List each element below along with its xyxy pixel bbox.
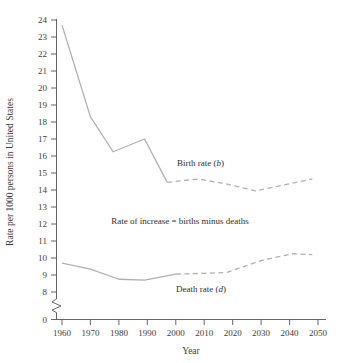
y-tick-0: 0 [43, 315, 48, 325]
death-rate-line-historical [62, 263, 176, 280]
data-series-group [62, 25, 312, 280]
y-tick-12: 12 [38, 219, 47, 229]
x-tick-1970: 1970 [81, 328, 100, 338]
y-tick-10: 10 [38, 253, 48, 263]
y-tick-16: 16 [38, 151, 48, 161]
y-tick-9: 9 [43, 270, 48, 280]
x-tick-1980: 1980 [110, 328, 129, 338]
x-tick-2040: 2040 [281, 328, 300, 338]
y-tick-17: 17 [38, 134, 48, 144]
y-axis-break-zigzag [52, 299, 61, 313]
x-tick-2050: 2050 [309, 328, 328, 338]
y-tick-20: 20 [38, 83, 48, 93]
y-tick-13: 13 [38, 202, 48, 212]
chart-container: Rate per 1000 persons in United States 2… [0, 0, 339, 363]
y-tick-22: 22 [38, 49, 47, 59]
y-axis-ticks: 24 23 22 21 20 19 18 17 16 15 14 13 12 [38, 15, 57, 325]
x-tick-2020: 2020 [224, 328, 243, 338]
y-tick-23: 23 [38, 32, 48, 42]
x-tick-2000: 2000 [167, 328, 186, 338]
y-tick-19: 19 [38, 100, 48, 110]
x-axis-title: Year [182, 346, 200, 356]
y-tick-11: 11 [38, 236, 47, 246]
y-tick-18: 18 [38, 117, 48, 127]
x-tick-2010: 2010 [195, 328, 214, 338]
x-tick-1960: 1960 [53, 328, 72, 338]
birth-rate-line-projected [167, 179, 312, 191]
birth-death-rate-line-chart: Rate per 1000 persons in United States 2… [0, 0, 339, 363]
rate-of-increase-label: Rate of increase = births minus deaths [111, 216, 249, 226]
y-tick-21: 21 [38, 66, 47, 76]
y-tick-14: 14 [38, 185, 48, 195]
y-axis-title: Rate per 1000 persons in United States [5, 98, 15, 246]
death-rate-line-projected [176, 254, 313, 274]
y-tick-8: 8 [43, 287, 48, 297]
birth-rate-line-historical [62, 25, 167, 182]
death-rate-label: Death rate (d) [176, 284, 226, 294]
birth-rate-label: Birth rate (b) [177, 158, 224, 168]
x-tick-2030: 2030 [252, 328, 271, 338]
y-tick-15: 15 [38, 168, 48, 178]
y-tick-24: 24 [38, 15, 48, 25]
x-tick-1990: 1990 [138, 328, 157, 338]
x-axis-ticks: 1960 1970 1980 1990 2000 2010 2020 2030 … [53, 320, 328, 339]
